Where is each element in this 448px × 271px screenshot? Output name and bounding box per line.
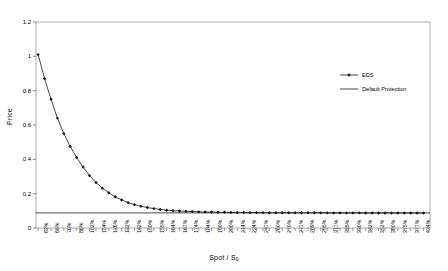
data-point-marker	[396, 211, 399, 214]
data-point-marker	[281, 211, 284, 214]
data-point-marker	[326, 211, 329, 214]
data-point-marker	[255, 211, 258, 214]
data-point-marker	[370, 211, 373, 214]
data-point-marker	[165, 208, 168, 211]
data-point-marker	[338, 211, 341, 214]
data-point-marker	[313, 211, 316, 214]
data-point-marker	[171, 209, 174, 212]
series-eds-line	[38, 55, 423, 213]
data-point-marker	[120, 198, 123, 201]
data-point-marker	[229, 211, 232, 214]
data-point-marker	[146, 206, 149, 209]
plot-surface	[0, 0, 448, 271]
data-point-marker	[319, 211, 322, 214]
data-point-marker	[268, 211, 271, 214]
data-point-marker	[345, 211, 348, 214]
data-point-marker	[126, 201, 129, 204]
data-point-marker	[332, 211, 335, 214]
data-point-marker	[422, 211, 425, 214]
data-point-marker	[178, 209, 181, 212]
legend-label-default-protection: Default Protection	[362, 86, 406, 92]
data-point-marker	[358, 211, 361, 214]
data-point-marker	[409, 211, 412, 214]
data-point-marker	[152, 207, 155, 210]
data-point-marker	[390, 211, 393, 214]
data-point-marker	[377, 211, 380, 214]
data-point-marker	[223, 211, 226, 214]
data-point-marker	[261, 211, 264, 214]
chart-container: Price Spot / S0 00.20.40.60.811.2 62%65%…	[0, 0, 448, 271]
data-point-marker	[351, 211, 354, 214]
data-point-marker	[415, 211, 418, 214]
data-point-marker	[69, 145, 72, 148]
data-point-marker	[49, 98, 52, 101]
legend-marker-eds-diamond	[347, 73, 350, 76]
data-point-marker	[158, 208, 161, 211]
data-point-marker	[56, 116, 59, 119]
data-point-marker	[62, 132, 65, 135]
data-point-marker	[236, 211, 239, 214]
data-point-marker	[287, 211, 290, 214]
data-point-marker	[293, 211, 296, 214]
data-point-marker	[383, 211, 386, 214]
data-point-marker	[300, 211, 303, 214]
data-point-marker	[133, 203, 136, 206]
data-point-marker	[248, 211, 251, 214]
data-point-marker	[274, 211, 277, 214]
data-point-marker	[306, 211, 309, 214]
data-point-marker	[242, 211, 245, 214]
data-point-marker	[216, 211, 219, 214]
data-point-marker	[36, 53, 39, 56]
data-point-marker	[364, 211, 367, 214]
plot-frame	[36, 22, 430, 228]
data-point-marker	[139, 204, 142, 207]
legend-label-eds: EDS	[362, 72, 374, 78]
data-point-marker	[210, 210, 213, 213]
data-point-marker	[43, 77, 46, 80]
data-point-marker	[403, 211, 406, 214]
